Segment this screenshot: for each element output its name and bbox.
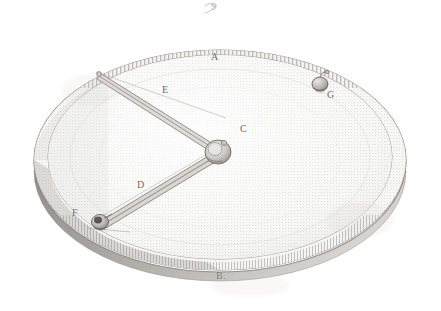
label-g: G	[327, 90, 335, 100]
engraving-plate: 9 A B. C D E F G	[0, 0, 441, 311]
engraving-vector-drawing	[0, 0, 441, 311]
center-hub	[205, 140, 231, 164]
label-a: A	[211, 52, 219, 62]
label-f: F	[72, 208, 78, 218]
label-e: E	[162, 85, 168, 95]
label-c: C	[240, 124, 247, 134]
figure-caption: 9	[211, 1, 217, 12]
label-b: B.	[216, 271, 226, 281]
label-d: D	[137, 180, 145, 190]
